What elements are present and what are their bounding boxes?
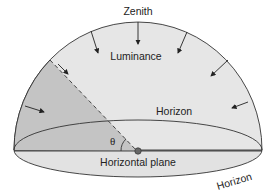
zenith-label: Zenith (123, 5, 152, 17)
luminance-label: Luminance (110, 50, 162, 62)
theta-label: θ (110, 135, 115, 147)
sky-dome-diagram: Zenith Luminance Horizon θ Horizontal pl… (0, 0, 271, 196)
horizontal-plane-label: Horizontal plane (100, 156, 176, 168)
horizon-back-label: Horizon (156, 105, 192, 117)
horizon-front-label: Horizon (215, 170, 253, 192)
observer-point (135, 148, 141, 154)
